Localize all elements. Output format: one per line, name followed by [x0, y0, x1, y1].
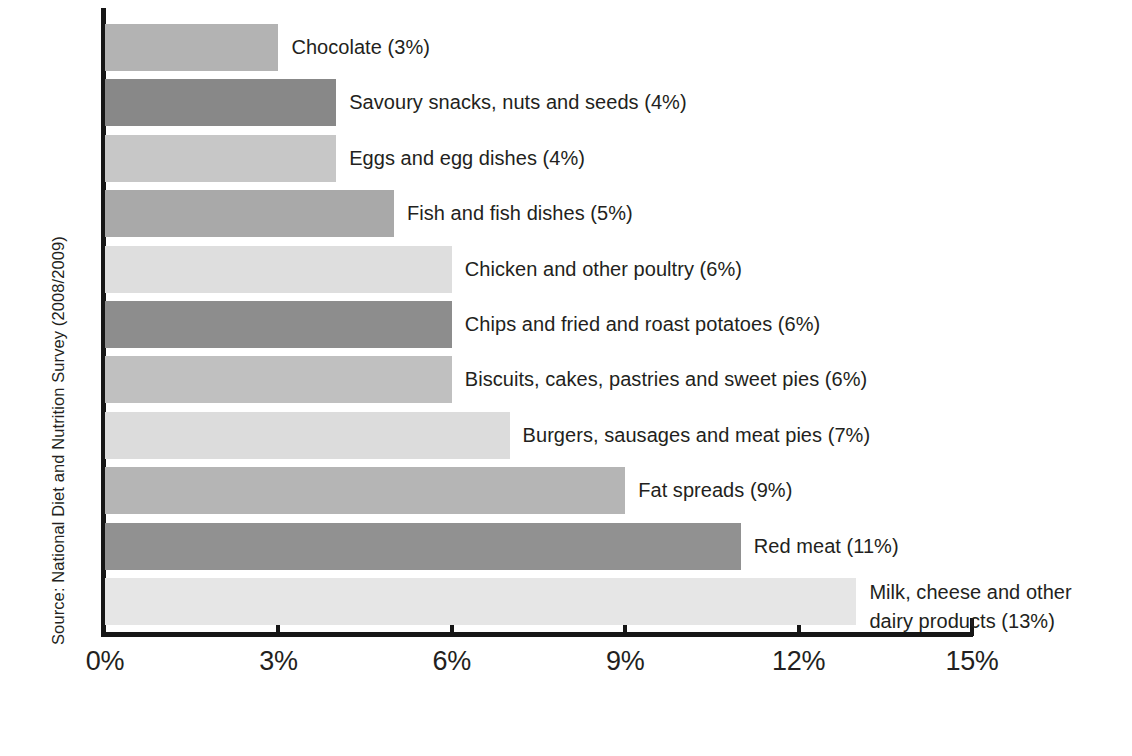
x-axis-tick-label: 3% [218, 646, 338, 677]
bar-row: Milk, cheese and other dairy products (1… [105, 578, 1072, 625]
bar [105, 24, 278, 71]
x-axis-tick-label: 9% [565, 646, 685, 677]
bar-value-label: Burgers, sausages and meat pies (7%) [510, 423, 871, 448]
bar [105, 578, 856, 625]
bar-value-label: Eggs and egg dishes (4%) [336, 146, 585, 171]
x-axis-tick-label: 6% [392, 646, 512, 677]
bar [105, 246, 452, 293]
bar [105, 356, 452, 403]
x-axis-tick-label: 0% [45, 646, 165, 677]
bar-value-label: Milk, cheese and other dairy products (1… [856, 578, 1071, 636]
bar-row: Fish and fish dishes (5%) [105, 190, 633, 237]
bar [105, 301, 452, 348]
bar-value-label: Red meat (11%) [741, 534, 899, 559]
bar [105, 412, 510, 459]
x-axis-tick-label: 12% [739, 646, 859, 677]
bar [105, 467, 625, 514]
bar-row: Burgers, sausages and meat pies (7%) [105, 412, 870, 459]
bar-chart: Source: National Diet and Nutrition Surv… [0, 0, 1132, 756]
bar-row: Eggs and egg dishes (4%) [105, 135, 585, 182]
bar-value-label: Fat spreads (9%) [625, 478, 792, 503]
bar-value-label: Fish and fish dishes (5%) [394, 201, 633, 226]
source-axis-label: Source: National Diet and Nutrition Surv… [43, 175, 73, 645]
bar-value-label: Biscuits, cakes, pastries and sweet pies… [452, 367, 867, 392]
bar-row: Savoury snacks, nuts and seeds (4%) [105, 79, 687, 126]
bar-row: Chicken and other poultry (6%) [105, 246, 742, 293]
bar-row: Chocolate (3%) [105, 24, 430, 71]
bar [105, 135, 336, 182]
bar-row: Chips and fried and roast potatoes (6%) [105, 301, 820, 348]
bar [105, 79, 336, 126]
x-axis-line [101, 632, 973, 637]
bar-row: Fat spreads (9%) [105, 467, 792, 514]
bar-value-label: Chicken and other poultry (6%) [452, 257, 742, 282]
bar [105, 190, 394, 237]
bar-value-label: Chocolate (3%) [278, 35, 430, 60]
x-axis-tick-label: 15% [912, 646, 1032, 677]
bar [105, 523, 741, 570]
bar-value-label: Savoury snacks, nuts and seeds (4%) [336, 90, 686, 115]
bar-row: Biscuits, cakes, pastries and sweet pies… [105, 356, 867, 403]
bar-value-label: Chips and fried and roast potatoes (6%) [452, 312, 821, 337]
bar-row: Red meat (11%) [105, 523, 899, 570]
